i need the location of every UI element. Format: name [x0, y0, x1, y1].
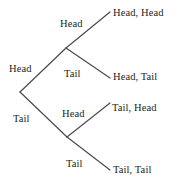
edge-tail-head: Head [62, 108, 85, 119]
edge-tail-tail: Tail [66, 158, 83, 169]
leaf-tail-tail: Tail, Tail [113, 164, 151, 175]
leaf-head-tail: Head, Tail [113, 71, 157, 82]
edge-root-tail: Tail [13, 113, 30, 124]
edge-root-head: Head [9, 63, 32, 74]
leaf-head-head: Head, Head [113, 7, 164, 18]
tree-branch-lines [0, 0, 178, 185]
probability-tree-diagram: HeadTailHeadTailHeadTail Head, HeadHead,… [0, 0, 178, 185]
edge-head-head: Head [60, 18, 83, 29]
edge-head-tail: Tail [64, 68, 81, 79]
leaf-tail-head: Tail, Head [112, 102, 157, 113]
